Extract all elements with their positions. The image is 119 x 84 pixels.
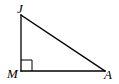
side-ja [21, 15, 105, 71]
vertex-label-m: M [6, 66, 19, 81]
vertex-label-j: J [17, 1, 24, 16]
vertex-label-a: A [103, 67, 112, 82]
right-angle-marker [21, 60, 32, 71]
right-triangle-diagram: J M A [0, 0, 119, 84]
triangle-sides [21, 15, 105, 71]
